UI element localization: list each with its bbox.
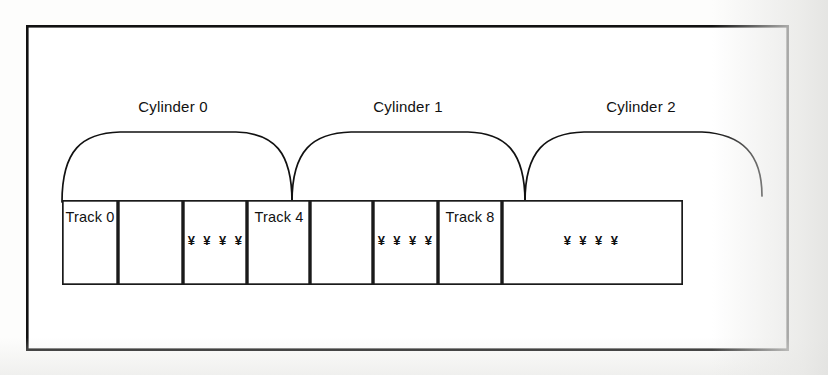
track-cell-label-0: Track 0	[65, 209, 114, 225]
cylinder-0-label: Cylinder 0	[138, 98, 208, 115]
cylinder-2-label: Cylinder 2	[606, 98, 676, 115]
track-cell-ellipsis-2: ¥ ¥ ¥ ¥	[188, 233, 245, 248]
disk-cylinder-track-diagram: Cylinder 0 Cylinder 1 Cylinder 2 Track 0…	[0, 0, 828, 375]
figure-frame	[27, 26, 787, 349]
figure-canvas: Cylinder 0 Cylinder 1 Cylinder 2 Track 0…	[0, 0, 828, 375]
track-cell	[311, 201, 372, 284]
track-cell-label-3: Track 4	[254, 209, 303, 225]
cylinder-1-label: Cylinder 1	[373, 98, 443, 115]
track-cell-ellipsis-5: ¥ ¥ ¥ ¥	[378, 233, 435, 248]
track-cell-ellipsis-7: ¥ ¥ ¥ ¥	[564, 233, 621, 248]
track-cell	[119, 201, 182, 284]
track-cell-label-6: Track 8	[445, 209, 494, 225]
